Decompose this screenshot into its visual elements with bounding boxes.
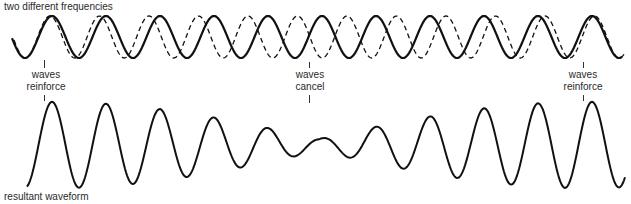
- annotation-line2: cancel: [288, 81, 332, 93]
- reinforce-right-top-tick: [583, 62, 584, 68]
- dashed-wave-line: [14, 16, 624, 58]
- resultant-waveform-label: resultant waveform: [4, 191, 88, 203]
- reinforce-right-bottom-tick: [583, 95, 584, 101]
- annotation-line2: reinforce: [561, 81, 605, 93]
- annotation-line1: waves: [561, 69, 605, 81]
- reinforce-left-bottom-tick: [44, 95, 45, 101]
- diagram-title: two different frequencies: [4, 1, 113, 13]
- wave-diagram: [0, 0, 631, 204]
- reinforce-left-top-tick: [44, 60, 45, 68]
- solid-wave-line: [12, 16, 622, 58]
- annotation-line2: reinforce: [24, 81, 68, 93]
- cancel-top-tick: [309, 62, 310, 68]
- annotation-line1: waves: [24, 69, 68, 81]
- resultant-wave-line: [27, 102, 625, 188]
- annotation-cancel: waves cancel: [288, 69, 332, 93]
- annotation-reinforce-left: waves reinforce: [24, 69, 68, 93]
- cancel-bottom-tick: [309, 95, 310, 103]
- annotation-reinforce-right: waves reinforce: [561, 69, 605, 93]
- annotation-line1: waves: [288, 69, 332, 81]
